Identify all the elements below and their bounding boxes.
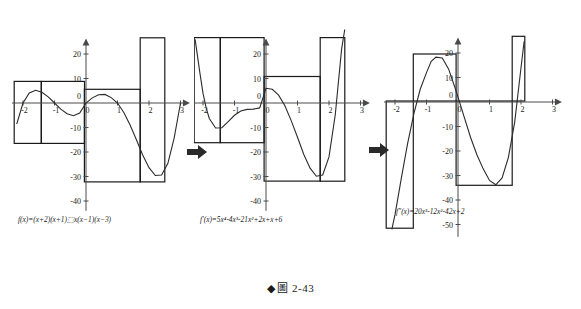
x-tick-label: 0 [86,106,90,115]
y-tick-label: 20 [73,50,81,59]
y-tick-label: 20 [253,50,261,59]
x-tick-label: 3 [360,106,364,115]
flow-arrow-1 [186,143,208,161]
chart-panel-f-double-prime: -2-1012320100-10-20-30-40-50f″(x)=20x³-1… [382,0,581,270]
caption-diamond-icon: ◆ [267,282,276,295]
y-tick-label: -30 [250,173,261,182]
x-tick-label: 0 [266,106,270,115]
rect-mid [264,77,320,182]
formula-label: f′(x)=5x⁴-4x³-21x²+2x+x+6 [200,215,283,224]
x-tick-label: 2 [329,106,333,115]
y-tick-label: -20 [70,148,81,157]
y-tick-label: -10 [442,123,453,132]
y-tick-label: -10 [250,124,261,133]
y-tick-label: -50 [442,221,453,230]
y-tick-label: 20 [445,49,453,58]
arrow-right-icon [369,143,389,157]
y-tick-label: -30 [442,172,453,181]
y-axis-arrowhead [83,38,90,45]
x-tick-label: -2 [393,105,400,114]
x-tick-label: 3 [180,106,184,115]
caption-label: 圖 [277,282,289,294]
rect-right [140,38,165,182]
x-tick-label: 2 [149,106,153,115]
y-tick-label: -30 [70,173,81,182]
y-tick-label: -40 [70,197,81,206]
flow-arrow-2 [368,141,390,159]
y-tick-label: -40 [442,196,453,205]
x-axis-arrowhead [363,100,370,107]
arrow-right-icon [187,145,207,159]
x-tick-label: 3 [552,105,556,114]
x-tick-label: 1 [297,106,301,115]
y-axis-arrowhead [455,37,462,44]
caption-number: 2-43 [292,282,314,294]
figure-caption: ◆圖 2-43 [0,279,581,295]
x-axis-arrowhead [183,100,190,107]
rect-left-inner [41,81,84,143]
y-tick-label: -10 [70,124,81,133]
chart-panel-f: -2-1012320100-10-20-30-40f(x)=(x+2)(x+1)… [0,0,200,270]
figure-2-43: -2-1012320100-10-20-30-40f(x)=(x+2)(x+1)… [0,0,581,309]
y-tick-label: -40 [250,197,261,206]
chart-panel-f-prime: -2-1012320100-10-20-30-40f′(x)=5x⁴-4x³-2… [194,0,389,270]
y-tick-label: -20 [250,148,261,157]
y-tick-label: -20 [442,147,453,156]
origin-label: 0 [77,92,81,101]
rect-left-outer [194,38,220,143]
x-tick-label: 1 [489,105,493,114]
x-tick-label: 2 [521,105,525,114]
y-tick-label: 10 [73,75,81,84]
x-axis-arrowhead [555,99,562,106]
y-tick-label: 10 [253,75,261,84]
formula-label: f(x)=(x+2)(x+1)⬚x(x−1)(x−3) [18,215,112,224]
origin-label: 0 [257,92,261,101]
formula-label: f″(x)=20x³-12x²-42x+2 [396,207,465,216]
origin-label: 0 [449,91,453,100]
x-tick-label: -1 [425,105,432,114]
